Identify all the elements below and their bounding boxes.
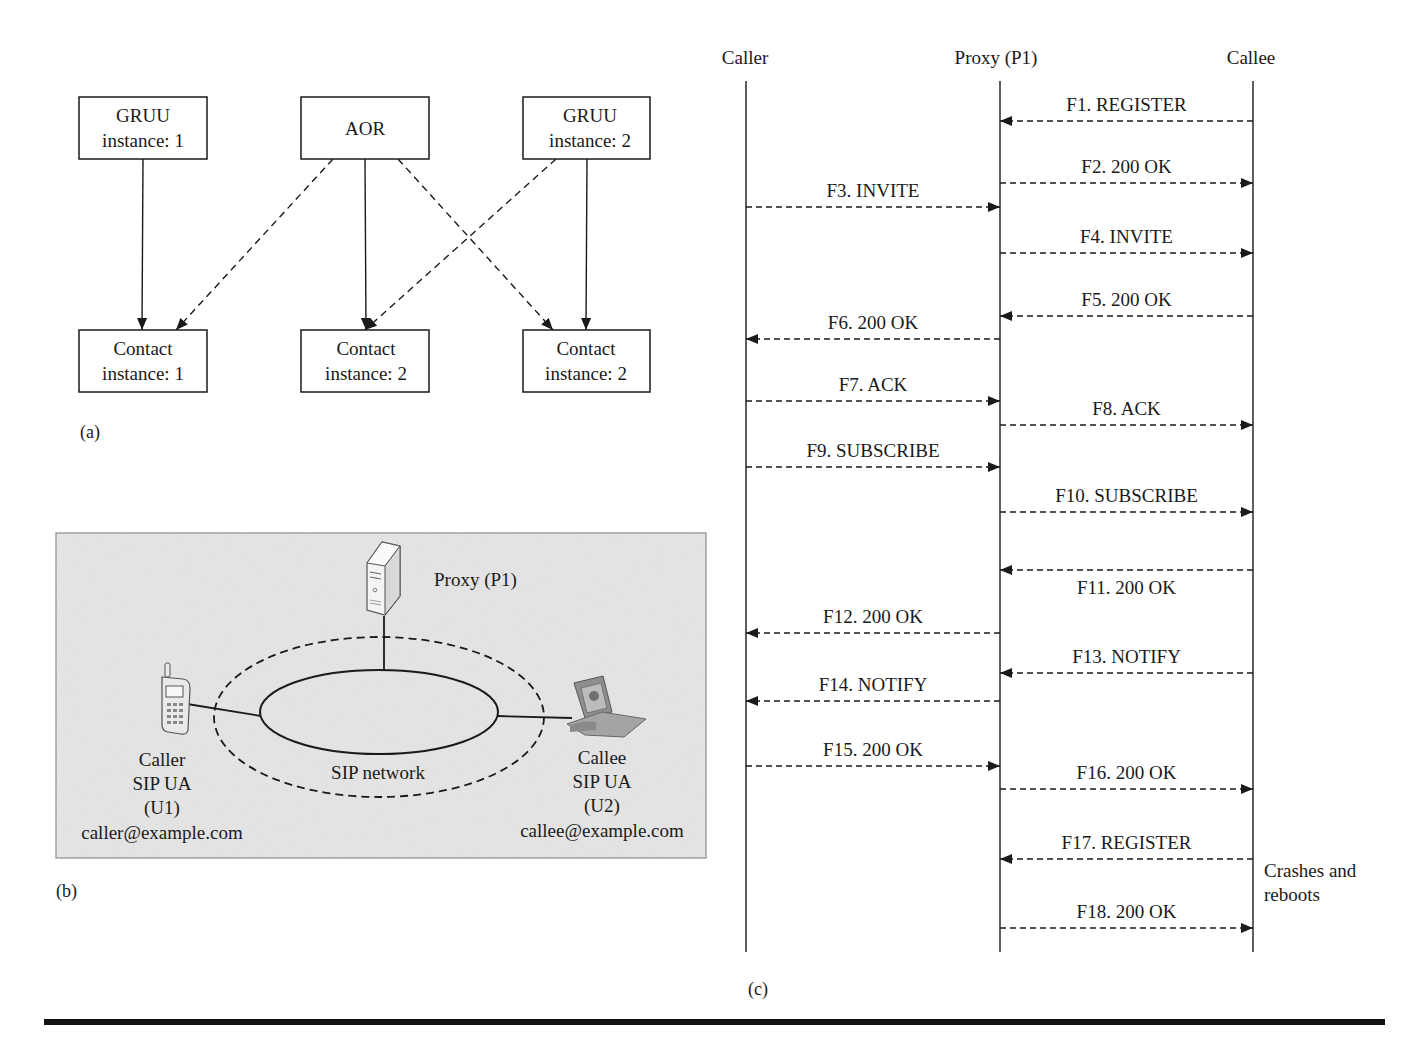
lane-header-proxy: Proxy (P1) [955,47,1038,69]
callee-label-line3: (U2) [584,795,620,817]
message-label: F18. 200 OK [1077,901,1177,922]
callee-note-line1: Crashes and [1264,860,1357,881]
callee-label-line2: SIP UA [573,771,632,792]
message-label: F6. 200 OK [828,312,919,333]
panel-c-caption: (c) [748,979,768,1000]
gruu-box-2: GRUU instance: 2 [523,97,650,159]
callee-address: callee@example.com [520,820,684,841]
caller-label-line3: (U1) [144,797,180,819]
panel-a-gruu-diagram: GRUU instance: 1 AOR GRUU instance: 2 Co… [79,97,650,443]
message-label: F12. 200 OK [823,606,923,627]
message-5: F5. 200 OK [1000,289,1253,316]
message-3: F3. INVITE [746,180,1000,207]
message-1: F1. REGISTER [1000,94,1253,121]
panel-b-network-diagram: Proxy (P1) Caller SIP UA (U1) caller@exa… [56,533,706,902]
message-10: F10. SUBSCRIBE [1000,485,1253,512]
message-7: F7. ACK [746,374,1000,401]
sip-network-label: SIP network [331,762,425,783]
message-14: F14. NOTIFY [746,674,1000,701]
message-label: F14. NOTIFY [819,674,928,695]
message-label: F17. REGISTER [1062,832,1192,853]
callee-note-line2: reboots [1264,884,1320,905]
message-label: F7. ACK [839,374,908,395]
message-label: F2. 200 OK [1081,156,1172,177]
gruu-box-1: GRUU instance: 1 [79,97,207,159]
edge-solid-2 [365,159,366,330]
message-15: F15. 200 OK [746,739,1000,766]
message-label: F11. 200 OK [1077,577,1176,598]
lane-header-callee: Callee [1227,47,1276,68]
message-label: F3. INVITE [827,180,920,201]
message-label: F13. NOTIFY [1072,646,1181,667]
message-9: F9. SUBSCRIBE [746,440,1000,467]
gruu-box-2-line2: instance: 2 [549,130,631,151]
caller-label-line1: Caller [139,749,186,770]
message-17: F17. REGISTER [1000,832,1253,859]
message-12: F12. 200 OK [746,606,1000,633]
lane-header-caller: Caller [722,47,769,68]
message-label: F4. INVITE [1080,226,1173,247]
gruu-box-1-line1: GRUU [116,105,170,126]
panel-c-sequence-diagram: Caller Proxy (P1) Callee F1. REGISTERF2.… [722,47,1357,1000]
contact-box-1-line2: instance: 1 [102,363,184,384]
aor-box-label: AOR [345,118,385,139]
message-label: F8. ACK [1092,398,1161,419]
message-16: F16. 200 OK [1000,762,1253,789]
callee-label-line1: Callee [578,747,627,768]
message-11: F11. 200 OK [1000,570,1253,598]
message-label: F9. SUBSCRIBE [806,440,939,461]
contact-box-2-line2: instance: 2 [325,363,407,384]
contact-box-3: Contact instance: 2 [523,330,650,392]
panel-a-edges [142,159,587,330]
message-4: F4. INVITE [1000,226,1253,253]
message-label: F16. 200 OK [1077,762,1177,783]
edge-solid-0 [142,159,143,330]
proxy-label: Proxy (P1) [434,569,517,591]
contact-box-1-line1: Contact [113,338,173,359]
edge-dashed-1 [176,159,333,330]
message-label: F10. SUBSCRIBE [1055,485,1198,506]
contact-box-3-line1: Contact [556,338,616,359]
message-8: F8. ACK [1000,398,1253,425]
gruu-box-2-line1: GRUU [563,105,617,126]
edge-solid-5 [586,159,587,330]
figure-canvas: GRUU instance: 1 AOR GRUU instance: 2 Co… [0,0,1425,1040]
message-label: F1. REGISTER [1066,94,1187,115]
edge-dashed-4 [365,159,556,330]
panel-b-caption: (b) [56,881,77,902]
message-2: F2. 200 OK [1000,156,1253,183]
caller-address: caller@example.com [81,822,243,843]
message-label: F5. 200 OK [1081,289,1172,310]
panel-a-caption: (a) [80,422,100,443]
bottom-rule [44,1019,1385,1025]
message-label: F15. 200 OK [823,739,923,760]
contact-box-2: Contact instance: 2 [301,330,429,392]
message-18: F18. 200 OK [1000,901,1253,928]
contact-box-3-line2: instance: 2 [545,363,627,384]
caller-label-line2: SIP UA [133,773,192,794]
contact-box-2-line1: Contact [336,338,396,359]
message-6: F6. 200 OK [746,312,1000,339]
message-13: F13. NOTIFY [1000,646,1253,673]
edge-dashed-3 [398,159,553,330]
contact-box-1: Contact instance: 1 [79,330,207,392]
aor-box: AOR [301,97,429,159]
gruu-box-1-line2: instance: 1 [102,130,184,151]
